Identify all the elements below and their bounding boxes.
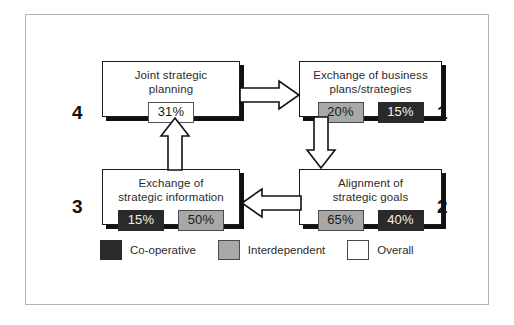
legend-swatch-co-operative	[100, 240, 122, 260]
value-chip-co-operative: 15%	[378, 102, 424, 123]
value-chip-interdependent: 50%	[178, 210, 224, 231]
left-arrow-up-icon	[158, 116, 194, 172]
box-title: Joint strategic planning	[135, 69, 207, 96]
legend-item-overall: Overall	[347, 240, 413, 260]
quadrant-number-2: 2	[437, 196, 448, 218]
top-arrow-right-icon	[239, 78, 303, 114]
process-box-joint-strategic-planning: Joint strategic planning 31%	[102, 61, 240, 117]
quadrant-number-1: 1	[437, 102, 448, 124]
legend-label: Interdependent	[248, 244, 325, 256]
value-chip-interdependent: 65%	[318, 210, 364, 231]
legend-item-co-operative: Co-operative	[100, 240, 196, 260]
box-chips: 65% 40%	[300, 210, 441, 231]
box-title: Exchange of business plans/strategies	[313, 69, 428, 96]
legend-item-interdependent: Interdependent	[218, 240, 325, 260]
bottom-arrow-left-icon	[239, 186, 303, 222]
box-title: Exchange of strategic information	[118, 177, 224, 204]
box-title: Alignment of strategic goals	[333, 177, 409, 204]
legend-label: Overall	[377, 244, 413, 256]
quadrant-number-3: 3	[72, 196, 83, 218]
legend-label: Co-operative	[130, 244, 196, 256]
legend-swatch-overall	[347, 240, 369, 260]
box-chips: 15% 50%	[103, 210, 239, 231]
right-arrow-down-icon	[304, 116, 340, 172]
process-box-exchange-of-strategic-information: Exchange of strategic information 15% 50…	[102, 169, 240, 225]
process-box-exchange-of-business-plans: Exchange of business plans/strategies 20…	[299, 61, 442, 117]
process-box-alignment-of-strategic-goals: Alignment of strategic goals 65% 40%	[299, 169, 442, 225]
value-chip-co-operative: 15%	[118, 210, 164, 231]
diagram-frame	[25, 14, 489, 305]
quadrant-number-4: 4	[72, 102, 83, 124]
value-chip-co-operative: 40%	[378, 210, 424, 231]
legend: Co-operative Interdependent Overall	[100, 240, 436, 260]
diagram-canvas: Joint strategic planning 31% Exchange of…	[0, 0, 514, 325]
legend-swatch-interdependent	[218, 240, 240, 260]
